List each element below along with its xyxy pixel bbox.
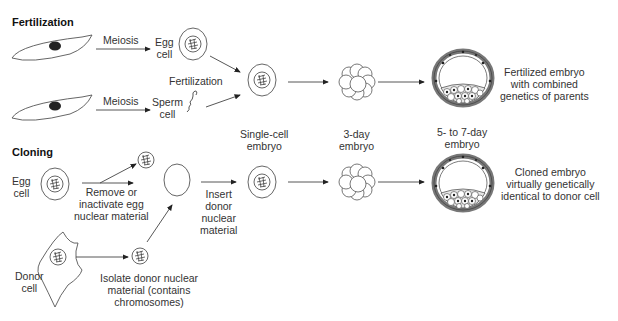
nucleus-icon bbox=[49, 42, 61, 51]
insert-step-label: Insert donor nuclear material bbox=[200, 188, 237, 236]
remove-step-line2: inactivate egg bbox=[74, 198, 149, 210]
stage-label-line1: Single-cell bbox=[240, 128, 288, 140]
isolate-step-label: Isolate donor nuclear material (contains… bbox=[100, 272, 198, 308]
diagram-canvas bbox=[0, 0, 618, 321]
sperm-cell-label: Sperm cell bbox=[152, 96, 183, 120]
isolate-step-line1: Isolate donor nuclear bbox=[100, 272, 198, 284]
sperm-icon bbox=[187, 91, 197, 112]
stage-label-line2: embryo bbox=[437, 138, 487, 150]
result-line3: genetics of parents bbox=[500, 90, 589, 102]
three-day-embryo-label: 3-day embryo bbox=[339, 128, 374, 152]
parent-cell-bottom bbox=[12, 95, 92, 120]
arrow-egg-to-embryo bbox=[210, 56, 240, 72]
isolate-step-line2: material (contains bbox=[100, 284, 198, 296]
isolate-step-line3: chromosomes) bbox=[100, 296, 198, 308]
egg-cell-icon bbox=[179, 28, 207, 60]
five-seven-day-embryo-label: 5- to 7-day embryo bbox=[437, 126, 487, 150]
sperm-cell-label-line2: cell bbox=[152, 108, 183, 120]
result-line2: with combined bbox=[500, 78, 589, 90]
removed-nucleus-icon bbox=[138, 152, 154, 168]
stage-label-line1: 5- to 7-day bbox=[437, 126, 487, 138]
clone-three-day-icon bbox=[339, 164, 375, 200]
egg-cell-label-line2: cell bbox=[12, 187, 31, 199]
egg-cell-label-line2: cell bbox=[155, 48, 174, 60]
parent-cell-top bbox=[12, 35, 92, 60]
insert-step-line3: nuclear bbox=[200, 212, 237, 224]
result-line1: Fertilized embryo bbox=[500, 66, 589, 78]
single-cell-embryo-icon bbox=[248, 64, 276, 96]
section-title-fertilization: Fertilization bbox=[12, 16, 74, 28]
donor-cell-label: Donor cell bbox=[15, 270, 44, 294]
arrow-sperm-to-embryo bbox=[206, 95, 240, 107]
stage-label-line1: 3-day bbox=[339, 128, 374, 140]
remove-step-label: Remove or inactivate egg nuclear materia… bbox=[74, 186, 149, 222]
donor-cell-icon bbox=[38, 232, 82, 307]
insert-step-line1: Insert bbox=[200, 188, 237, 200]
result-line1: Cloned embryo bbox=[501, 166, 600, 178]
donor-cell-label-line2: cell bbox=[15, 282, 44, 294]
nucleus-icon bbox=[49, 102, 61, 111]
clone-egg-cell-icon bbox=[41, 168, 69, 200]
remove-step-line3: nuclear material bbox=[74, 210, 149, 222]
three-day-embryo-icon bbox=[339, 64, 375, 100]
enucleated-egg-icon bbox=[164, 164, 190, 196]
clone-blastocyst-icon bbox=[434, 156, 492, 210]
fertilized-embryo-result: Fertilized embryo with combined genetics… bbox=[500, 66, 589, 102]
remove-step-line1: Remove or bbox=[74, 186, 149, 198]
result-line3: identical to donor cell bbox=[501, 190, 600, 202]
blastocyst-icon bbox=[434, 51, 492, 105]
clone-single-cell-icon bbox=[248, 166, 276, 198]
insert-step-line2: donor bbox=[200, 200, 237, 212]
result-line2: virtually genetically bbox=[501, 178, 600, 190]
cloned-embryo-result: Cloned embryo virtually genetically iden… bbox=[501, 166, 600, 202]
meiosis-label-top: Meiosis bbox=[103, 34, 139, 46]
insert-step-line4: material bbox=[200, 224, 237, 236]
egg-cell-label-line1: Egg bbox=[155, 36, 174, 48]
stage-label-line2: embryo bbox=[339, 140, 374, 152]
donor-cell-label-line1: Donor bbox=[15, 270, 44, 282]
egg-cell-label-line1: Egg bbox=[12, 175, 31, 187]
clone-egg-cell-label: Egg cell bbox=[12, 175, 31, 199]
meiosis-label-bottom: Meiosis bbox=[103, 95, 139, 107]
single-cell-embryo-label: Single-cell embryo bbox=[240, 128, 288, 152]
section-title-cloning: Cloning bbox=[12, 146, 53, 158]
stage-label-line2: embryo bbox=[240, 140, 288, 152]
isolated-nucleus-icon bbox=[132, 248, 148, 264]
fertilization-label: Fertilization bbox=[169, 75, 223, 87]
egg-cell-label: Egg cell bbox=[155, 36, 174, 60]
sperm-cell-label-line1: Sperm bbox=[152, 96, 183, 108]
